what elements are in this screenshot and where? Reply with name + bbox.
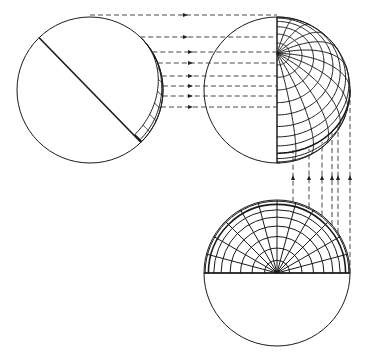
diagonal-boundary [39, 37, 141, 142]
graticule-line [135, 38, 159, 134]
arrow-right-icon [188, 84, 193, 88]
arrow-right-icon [188, 94, 193, 98]
arrow-right-icon [188, 105, 193, 109]
meridian-line [277, 202, 296, 273]
side-view-globe [204, 17, 350, 163]
arrow-up-icon [320, 175, 324, 180]
tilted-globe [17, 17, 163, 163]
arrow-right-icon [188, 74, 193, 78]
arrow-right-icon [183, 13, 188, 17]
sphere-projection-diagram [0, 0, 371, 361]
arrow-right-icon [188, 61, 193, 65]
graticule-line [277, 54, 329, 145]
meridian-line [258, 202, 277, 273]
arrow-up-icon [330, 175, 334, 180]
arrow-up-icon [307, 175, 311, 180]
arrow-up-icon [336, 175, 340, 180]
arrow-right-icon [188, 50, 193, 54]
arrow-right-icon [183, 35, 188, 39]
meridian-line [277, 254, 348, 273]
graticule-line [277, 19, 293, 54]
arrow-up-icon [291, 175, 295, 180]
horizontal-projection-lines [90, 13, 277, 109]
arrow-up-icon [348, 175, 352, 180]
polar-view-globe [204, 200, 350, 346]
meridian-line [206, 254, 277, 273]
graticule-line [277, 54, 348, 111]
